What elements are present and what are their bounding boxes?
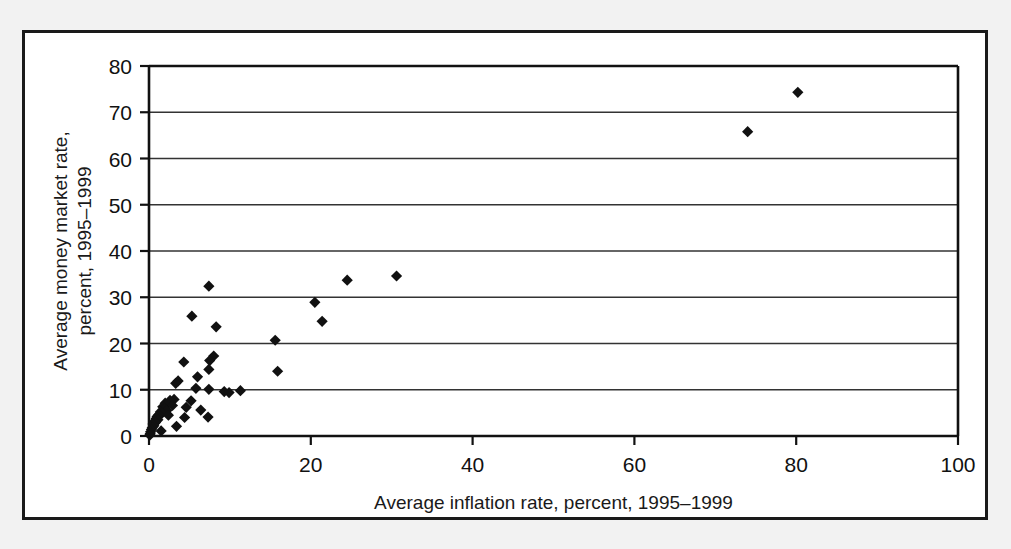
x-tick-label-0: 0 bbox=[143, 453, 155, 476]
scatter-chart: 020406080100 01020304050607080 Average i… bbox=[25, 33, 991, 523]
y-tick-label-60: 60 bbox=[109, 148, 132, 171]
data-points-group bbox=[144, 87, 803, 441]
figure-frame: 020406080100 01020304050607080 Average i… bbox=[22, 30, 988, 520]
data-point bbox=[203, 281, 214, 292]
data-point bbox=[186, 311, 197, 322]
chart-canvas: 020406080100 01020304050607080 Average i… bbox=[25, 33, 991, 523]
y-axis-title-line-2: percent, 1995–1999 bbox=[74, 166, 95, 335]
data-point bbox=[391, 270, 402, 281]
y-tick-marks-group bbox=[140, 66, 149, 436]
data-point bbox=[742, 126, 753, 137]
x-axis-title: Average inflation rate, percent, 1995–19… bbox=[374, 492, 733, 513]
x-tick-label-100: 100 bbox=[940, 453, 975, 476]
gridlines-group bbox=[149, 112, 958, 390]
data-point bbox=[171, 421, 182, 432]
data-point bbox=[272, 366, 283, 377]
y-tick-label-40: 40 bbox=[109, 240, 132, 263]
y-tick-label-10: 10 bbox=[109, 379, 132, 402]
y-tick-label-20: 20 bbox=[109, 333, 132, 356]
data-point bbox=[190, 383, 201, 394]
data-point bbox=[792, 87, 803, 98]
y-tick-label-80: 80 bbox=[109, 55, 132, 78]
y-tick-label-70: 70 bbox=[109, 101, 132, 124]
x-tick-labels-group: 020406080100 bbox=[143, 453, 975, 476]
y-tick-labels-group: 01020304050607080 bbox=[109, 55, 132, 448]
data-point bbox=[317, 316, 328, 327]
y-axis-title-line-1: Average money market rate, bbox=[50, 131, 71, 370]
data-point bbox=[211, 321, 222, 332]
data-point bbox=[235, 385, 246, 396]
data-point bbox=[195, 405, 206, 416]
x-tick-label-60: 60 bbox=[623, 453, 646, 476]
x-tick-label-40: 40 bbox=[461, 453, 484, 476]
data-point bbox=[203, 364, 214, 375]
y-tick-label-0: 0 bbox=[120, 425, 132, 448]
x-tick-marks-group bbox=[149, 436, 958, 445]
data-point bbox=[203, 384, 214, 395]
data-point bbox=[309, 297, 320, 308]
data-point bbox=[342, 275, 353, 286]
y-tick-label-30: 30 bbox=[109, 286, 132, 309]
data-point bbox=[179, 412, 190, 423]
y-tick-label-50: 50 bbox=[109, 194, 132, 217]
x-tick-label-80: 80 bbox=[785, 453, 808, 476]
data-point bbox=[178, 356, 189, 367]
data-point bbox=[202, 411, 213, 422]
x-tick-label-20: 20 bbox=[299, 453, 322, 476]
data-point bbox=[192, 371, 203, 382]
